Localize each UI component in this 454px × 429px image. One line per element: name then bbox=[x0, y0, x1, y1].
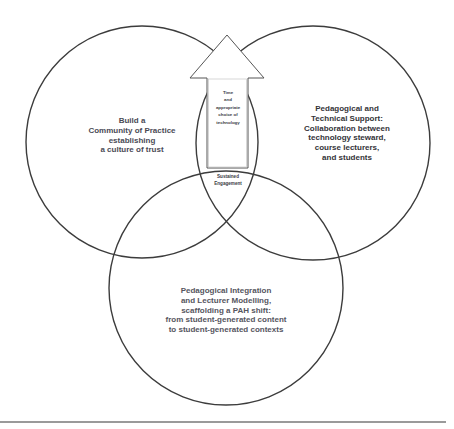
label-arrow-time-technology: Time and appropriate choice of technolog… bbox=[205, 89, 251, 126]
label-community-of-practice: Build a Community of Practice establishi… bbox=[42, 116, 222, 155]
label-sustained-engagement: Sustained Engagement bbox=[200, 174, 256, 187]
horizontal-divider bbox=[0, 421, 446, 423]
venn-diagram bbox=[0, 0, 454, 429]
label-pedagogical-integration: Pedagogical Integration and Lecturer Mod… bbox=[136, 286, 316, 335]
label-pedagogical-technical-support: Pedagogical and Technical Support: Colla… bbox=[280, 104, 414, 163]
